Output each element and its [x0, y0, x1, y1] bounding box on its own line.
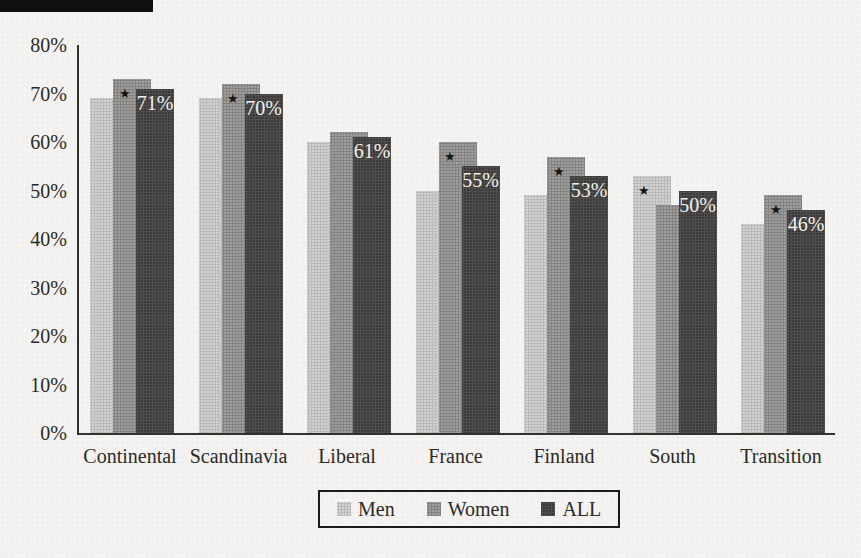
bar-group-south: 50%★	[633, 45, 717, 433]
y-tick-label: 70%	[5, 82, 67, 106]
bar-value-label: 61%	[353, 140, 391, 162]
bar-value-label: 55%	[462, 169, 500, 191]
legend-label: Men	[358, 499, 395, 519]
legend: MenWomenALL	[318, 490, 620, 528]
bar-group-france: 55%★	[416, 45, 500, 433]
significance-star-icon: ★	[768, 203, 784, 216]
bar-group-continental: 71%★	[90, 45, 174, 433]
significance-star-icon: ★	[117, 87, 133, 100]
plot-area: 71%★70%★61%55%★53%★50%★46%★	[77, 45, 835, 435]
legend-label: ALL	[562, 499, 601, 519]
bar-all-south: 50%	[679, 191, 717, 434]
legend-item-all: ALL	[541, 499, 601, 519]
y-tick-label: 10%	[5, 373, 67, 397]
y-tick-label: 40%	[5, 227, 67, 251]
scan-artifact-bar	[0, 0, 153, 12]
y-tick-label: 30%	[5, 276, 67, 300]
bar-value-label: 50%	[679, 194, 717, 216]
scanned-bar-chart-figure: 71%★70%★61%55%★53%★50%★46%★ 0%10%20%30%4…	[0, 0, 861, 558]
bar-all-finland: 53%	[570, 176, 608, 433]
bar-all-france: 55%	[462, 166, 500, 433]
y-tick-label: 0%	[5, 421, 67, 445]
legend-item-women: Women	[427, 499, 510, 519]
y-tick-label: 20%	[5, 324, 67, 348]
x-category-label-transition: Transition	[706, 444, 856, 468]
bar-value-label: 70%	[245, 97, 283, 119]
bar-group-liberal: 61%	[307, 45, 391, 433]
y-tick-label: 60%	[5, 130, 67, 154]
legend-item-men: Men	[337, 499, 395, 519]
legend-swatch-men	[337, 502, 351, 516]
y-tick-label: 80%	[5, 33, 67, 57]
significance-star-icon: ★	[551, 165, 567, 178]
bar-all-transition: 46%	[787, 210, 825, 433]
bar-all-liberal: 61%	[353, 137, 391, 433]
bar-group-transition: 46%★	[741, 45, 825, 433]
bar-all-scandinavia: 70%	[245, 94, 283, 434]
significance-star-icon: ★	[225, 92, 241, 105]
legend-swatch-all	[541, 502, 555, 516]
bar-group-scandinavia: 70%★	[199, 45, 283, 433]
bar-value-label: 71%	[136, 92, 174, 114]
bar-all-continental: 71%	[136, 89, 174, 433]
legend-swatch-women	[427, 502, 441, 516]
bar-value-label: 46%	[787, 213, 825, 235]
bar-value-label: 53%	[570, 179, 608, 201]
y-tick-label: 50%	[5, 179, 67, 203]
significance-star-icon: ★	[442, 150, 458, 163]
bar-group-finland: 53%★	[524, 45, 608, 433]
legend-label: Women	[448, 499, 510, 519]
significance-star-icon: ★	[636, 184, 652, 197]
